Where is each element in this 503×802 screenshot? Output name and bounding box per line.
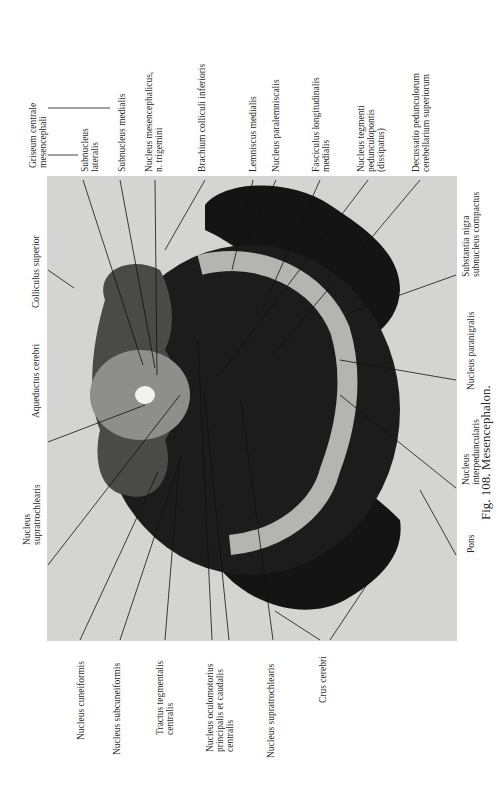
label-nucleus-paralemniscalis: Nucleus paralemniscalis: [271, 79, 281, 172]
label-line: Decussatio pedunculorum: [411, 73, 421, 172]
micrograph-photo: [47, 176, 457, 641]
label-griseum-centrale: Griseum centrale mesencephali: [28, 103, 48, 168]
label-tractus-tegmentalis: Tractus tegmentalis centralis: [155, 661, 175, 735]
label-line: (dissipatus): [376, 105, 386, 172]
label-line: Nucleus subcuneiformis: [112, 663, 122, 755]
label-line: Subnucleus medialis: [117, 94, 127, 172]
label-line: Nucleus: [461, 419, 471, 485]
label-aqueductus-cerebri: Aqueductus cerebri: [31, 344, 41, 418]
label-lemniscus-medialis: Lemniscus medialis: [248, 96, 258, 172]
label-line: lateralis: [90, 128, 100, 172]
label-line: Brachium colliculi inferioris: [197, 64, 207, 172]
label-line: Griseum centrale: [28, 103, 38, 168]
label-subnucleus-lateralis: Subnucleus lateralis: [80, 128, 100, 172]
label-nucleus-paranigralis: Nucleus paranigralis: [466, 312, 476, 390]
label-crus-cerebri: Crus cerebri: [318, 656, 328, 703]
label-line: Lemniscus medialis: [248, 96, 258, 172]
label-line: n. trigemini: [154, 72, 164, 172]
label-line: mesencephali: [38, 103, 48, 168]
label-line: cerebellarium superiorum: [421, 73, 431, 172]
label-pons: Pons: [466, 535, 476, 553]
label-line: subnucleus compactus: [471, 192, 481, 277]
label-line: Aqueductus cerebri: [31, 344, 41, 418]
figure-caption: Fig. 108. Mesencephalon.: [478, 385, 494, 520]
label-nucleus-subcuneiformis: Nucleus subcuneiformis: [112, 663, 122, 755]
label-line: Fasciculus longitudinalis: [311, 77, 321, 172]
label-colliculus-superior: Colliculus superior: [31, 235, 41, 308]
label-line: centralis: [165, 661, 175, 735]
label-brachium-colliculi: Brachium colliculi inferioris: [197, 64, 207, 172]
label-line: principalis et caudalis: [215, 664, 225, 752]
label-line: medialis: [321, 77, 331, 172]
label-nucleus-supratrochlearis-left: Nucleus supratrochlearis: [22, 484, 42, 545]
label-nucleus-mesencephalicus: Nucleus mesencephalicus, n. trigemini: [144, 72, 164, 172]
label-nucleus-tegmenti: Nucleus tegmenti pedunculopontis (dissip…: [356, 105, 386, 172]
label-line: Tractus tegmentalis: [155, 661, 165, 735]
label-line: Nucleus paranigralis: [466, 312, 476, 390]
label-substantia-nigra: Substantia nigra subnucleus compactus: [461, 192, 481, 277]
label-line: Nucleus supratrochlearis: [266, 664, 276, 758]
label-line: Nucleus cuneiformis: [76, 661, 86, 740]
label-line: pedunculopontis: [366, 105, 376, 172]
label-line: Nucleus: [22, 484, 32, 545]
label-line: Crus cerebri: [318, 656, 328, 703]
label-line: centralis: [225, 664, 235, 752]
label-nucleus-supratrochlearis-bottom: Nucleus supratrochlearis: [266, 664, 276, 758]
label-line: Subnucleus: [80, 128, 90, 172]
label-nucleus-cuneiformis: Nucleus cuneiformis: [76, 661, 86, 740]
label-line: supratrochlearis: [32, 484, 42, 545]
label-decussatio: Decussatio pedunculorum cerebellarium su…: [411, 73, 431, 172]
label-line: Pons: [466, 535, 476, 553]
label-line: Nucleus mesencephalicus,: [144, 72, 154, 172]
label-nucleus-oculomotorius: Nucleus oculomotorius principalis et cau…: [205, 664, 235, 752]
label-line: Substantia nigra: [461, 192, 471, 277]
label-line: Nucleus oculomotorius: [205, 664, 215, 752]
label-line: Nucleus tegmenti: [356, 105, 366, 172]
label-subnucleus-medialis: Subnucleus medialis: [117, 94, 127, 172]
label-line: Nucleus paralemniscalis: [271, 79, 281, 172]
label-fasciculus-longitudinalis: Fasciculus longitudinalis medialis: [311, 77, 331, 172]
label-line: Colliculus superior: [31, 235, 41, 308]
